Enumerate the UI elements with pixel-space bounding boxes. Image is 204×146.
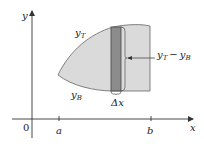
tick-label-a: a <box>56 125 62 136</box>
bottom-curve-label: yB <box>70 89 82 102</box>
y-axis-label: y <box>21 10 28 21</box>
area-diagram: y x 0 a b yT yB Δx yT−yB <box>0 0 204 146</box>
approximating-rectangle <box>111 27 121 91</box>
x-axis-label: x <box>190 122 196 133</box>
strip-width-label: Δx <box>110 97 124 108</box>
tick-label-b: b <box>147 125 153 136</box>
origin-label: 0 <box>23 122 29 133</box>
width-brace <box>111 91 121 95</box>
strip-height-label: yT−yB <box>156 49 191 62</box>
top-curve-label: yT <box>74 27 87 40</box>
